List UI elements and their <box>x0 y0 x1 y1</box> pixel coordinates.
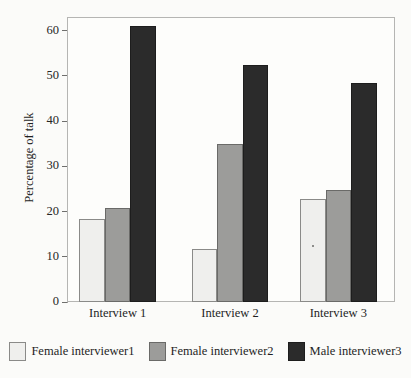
bar <box>243 65 269 303</box>
scan-speck <box>312 245 314 247</box>
legend: Female interviewer1Female interviewer2Ma… <box>0 336 411 366</box>
y-tick-label: 60 <box>47 22 60 39</box>
bar <box>300 199 326 302</box>
legend-label: Female interviewer1 <box>31 344 134 359</box>
legend-item[interactable]: Male interviewer3 <box>288 342 402 361</box>
y-tick-label: 20 <box>47 203 60 220</box>
legend-swatch <box>9 342 26 361</box>
bar <box>326 190 352 302</box>
y-tick-label: 30 <box>47 157 60 174</box>
bar <box>79 219 105 302</box>
bar-chart-figure: Percentage of talk 0102030405060 Intervi… <box>0 0 411 378</box>
bar <box>217 144 243 302</box>
y-tick-label: 50 <box>47 67 60 84</box>
legend-item[interactable]: Female interviewer1 <box>9 342 134 361</box>
legend-label: Male interviewer3 <box>310 344 402 359</box>
bar <box>351 83 377 302</box>
bar <box>130 26 156 302</box>
y-tick-label: 0 <box>53 293 59 310</box>
y-axis: 0102030405060 <box>0 0 67 378</box>
legend-item[interactable]: Female interviewer2 <box>149 342 274 361</box>
legend-swatch <box>288 342 305 361</box>
legend-swatch <box>149 342 166 361</box>
bar <box>105 208 131 302</box>
x-tick-label: Interview 1 <box>89 306 146 321</box>
bars-layer <box>67 17 395 302</box>
y-tick-label: 10 <box>47 248 60 265</box>
y-tick-label: 40 <box>47 112 60 129</box>
x-tick-label: Interview 2 <box>201 306 258 321</box>
bar <box>192 249 218 302</box>
legend-label: Female interviewer2 <box>171 344 274 359</box>
x-tick-label: Interview 3 <box>310 306 367 321</box>
